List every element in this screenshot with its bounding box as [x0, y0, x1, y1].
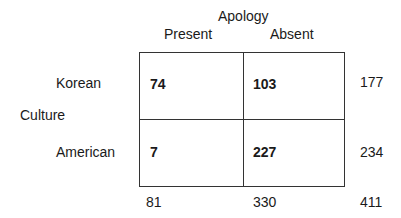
- column-total-absent: 330: [253, 194, 276, 210]
- cell-american-absent: 227: [253, 144, 276, 160]
- column-header-absent: Absent: [270, 26, 314, 42]
- cell-american-present: 7: [150, 144, 158, 160]
- column-variable-label: Apology: [218, 8, 269, 24]
- row-total-korean: 177: [360, 74, 383, 90]
- grand-total: 411: [360, 194, 382, 210]
- column-total-present: 81: [146, 194, 162, 210]
- row-total-american: 234: [360, 144, 383, 160]
- column-header-present: Present: [164, 26, 212, 42]
- contingency-grid: [139, 52, 345, 187]
- cell-korean-present: 74: [150, 76, 166, 92]
- cell-korean-absent: 103: [253, 76, 276, 92]
- grid-horizontal-divider: [140, 119, 344, 120]
- row-label-korean: Korean: [56, 75, 101, 91]
- row-variable-label: Culture: [20, 107, 65, 123]
- row-label-american: American: [56, 144, 115, 160]
